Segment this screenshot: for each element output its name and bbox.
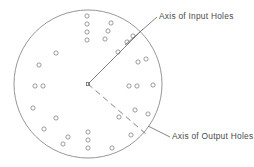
- holes-group: [31, 14, 155, 150]
- hole: [135, 84, 139, 88]
- labels-group: Axis of Input Holes Axis of Output Holes: [159, 11, 253, 141]
- hole: [86, 138, 90, 142]
- hole: [136, 60, 140, 64]
- hole: [151, 83, 155, 87]
- leaders-group: [125, 17, 170, 137]
- input-axis-line: [88, 29, 143, 84]
- hole: [127, 84, 131, 88]
- hole: [85, 22, 89, 26]
- figure-container: Axis of Input Holes Axis of Output Holes: [0, 0, 254, 167]
- hole: [85, 14, 89, 18]
- hole: [109, 21, 113, 25]
- input-axis-label: Axis of Input Holes: [159, 11, 234, 21]
- hole: [54, 51, 58, 55]
- hole: [37, 63, 41, 67]
- hole: [110, 146, 114, 150]
- disc-hole-pattern-diagram: Axis of Input Holes Axis of Output Holes: [0, 0, 254, 167]
- axes-group: [86, 29, 146, 134]
- output-axis-label: Axis of Output Holes: [172, 131, 253, 141]
- hole: [41, 84, 45, 88]
- hole: [129, 133, 133, 137]
- hole: [117, 115, 121, 119]
- hole: [144, 57, 148, 61]
- hole: [103, 37, 107, 41]
- hole: [66, 135, 70, 139]
- hole: [33, 84, 37, 88]
- hole: [85, 38, 89, 42]
- hole: [61, 142, 65, 146]
- output-axis-leader-line: [148, 126, 170, 137]
- hole: [85, 30, 89, 34]
- hole: [86, 146, 90, 150]
- hole: [146, 112, 150, 116]
- input-axis-leader-line: [125, 17, 157, 45]
- hole: [54, 116, 58, 120]
- hole: [86, 130, 90, 134]
- hole: [42, 127, 46, 131]
- hole: [133, 108, 137, 112]
- hole: [106, 29, 110, 33]
- hole: [31, 106, 35, 110]
